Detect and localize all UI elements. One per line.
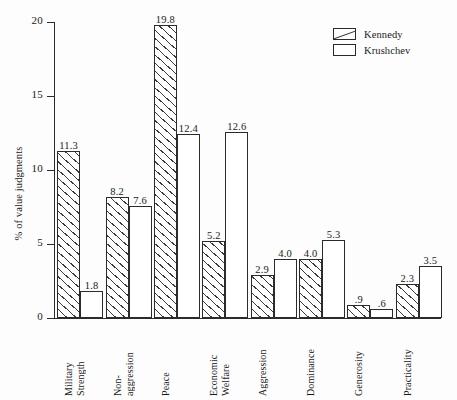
legend-label: Krushchev <box>364 45 410 56</box>
legend-label: Kennedy <box>364 29 403 40</box>
bar-value-label: 2.9 <box>255 264 269 275</box>
y-axis-title: % of value judgments <box>13 124 24 264</box>
bar-krushchev-practicality[interactable]: 3.5 <box>419 266 442 318</box>
legend-item-krushchev[interactable]: Krushchev <box>333 44 410 56</box>
bar-kennedy-aggression[interactable]: 2.9 <box>251 275 274 318</box>
bar-group: 19.812.4 <box>154 22 200 318</box>
bar-group: 2.33.5 <box>396 22 442 318</box>
bar-value-label: 12.6 <box>227 121 246 132</box>
legend: Kennedy Krushchev <box>333 28 410 60</box>
plot-area: 11.31.88.27.619.812.45.212.62.94.04.05.3… <box>54 22 441 318</box>
bar-kennedy-practicality[interactable]: 2.3 <box>396 284 419 318</box>
x-axis-line <box>54 318 441 319</box>
bar-value-label: 11.3 <box>59 140 78 151</box>
bar-krushchev-dominance[interactable]: 5.3 <box>322 240 345 318</box>
bar-chart: % of value judgments 05101520 11.31.88.2… <box>0 0 457 400</box>
bar-group: 8.27.6 <box>106 22 152 318</box>
y-axis-tick-label: 0 <box>37 310 43 322</box>
bar-krushchev-economic-welfare[interactable]: 12.6 <box>225 132 248 318</box>
bar-kennedy-economic-welfare[interactable]: 5.2 <box>202 241 225 318</box>
bar-value-label: 7.6 <box>133 195 147 206</box>
x-axis-label-generosity: Generosity <box>353 326 365 396</box>
bar-kennedy-dominance[interactable]: 4.0 <box>299 259 322 318</box>
x-axis-label-non--aggression: Non-aggression <box>112 326 135 396</box>
legend-swatch-plain-icon <box>333 44 356 56</box>
y-axis-tick-label: 10 <box>32 162 43 174</box>
x-axis-label-peace: Peace <box>160 326 172 396</box>
bar-group: 11.31.8 <box>57 22 103 318</box>
bar-value-label: 3.5 <box>423 255 437 266</box>
bar-value-label: 1.8 <box>85 280 99 291</box>
bar-krushchev-non--aggression[interactable]: 7.6 <box>129 206 152 318</box>
bar-group: 4.05.3 <box>299 22 345 318</box>
bar-kennedy-peace[interactable]: 19.8 <box>154 25 177 318</box>
bar-group: 2.94.0 <box>251 22 297 318</box>
y-axis-tick: 0 <box>47 318 55 319</box>
bar-kennedy-non--aggression[interactable]: 8.2 <box>106 197 129 318</box>
bar-krushchev-peace[interactable]: 12.4 <box>177 134 200 318</box>
legend-item-kennedy[interactable]: Kennedy <box>333 28 410 40</box>
bar-value-label: 5.2 <box>207 230 221 241</box>
bar-value-label: 12.4 <box>179 123 198 134</box>
bar-krushchev-aggression[interactable]: 4.0 <box>274 259 297 318</box>
x-axis-label-practicality: Practicality <box>402 326 414 396</box>
bar-value-label: 8.2 <box>110 186 124 197</box>
x-axis-label-aggression: Aggression <box>257 326 269 396</box>
y-axis-tick-label: 20 <box>32 14 43 26</box>
y-axis-tick-label: 5 <box>37 236 43 248</box>
bar-value-label: .6 <box>378 298 386 309</box>
bar-value-label: 5.3 <box>327 229 341 240</box>
bar-value-label: .9 <box>355 294 363 305</box>
bar-krushchev-military-strength[interactable]: 1.8 <box>80 291 103 318</box>
legend-swatch-hatched-icon <box>333 28 356 40</box>
bar-group: .9.6 <box>347 22 393 318</box>
bar-value-label: 19.8 <box>156 14 175 25</box>
bar-krushchev-generosity[interactable]: .6 <box>370 309 393 318</box>
bar-value-label: 4.0 <box>278 248 292 259</box>
bar-value-label: 2.3 <box>400 273 414 284</box>
bar-kennedy-military-strength[interactable]: 11.3 <box>57 151 80 318</box>
y-axis-tick-label: 15 <box>32 88 43 100</box>
x-axis-label-economic-welfare: EconomicWelfare <box>208 326 231 396</box>
bar-group: 5.212.6 <box>202 22 248 318</box>
x-axis-label-military-strength: MilitaryStrength <box>63 326 86 396</box>
x-axis-label-dominance: Dominance <box>305 326 317 396</box>
bar-kennedy-generosity[interactable]: .9 <box>347 305 370 318</box>
bar-value-label: 4.0 <box>304 248 318 259</box>
